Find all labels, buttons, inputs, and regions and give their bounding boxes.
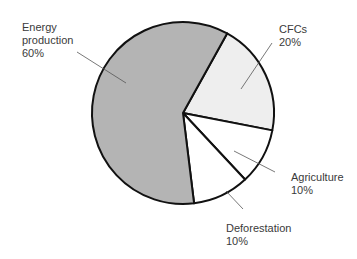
label-energy-line1: Energy: [22, 21, 73, 34]
label-energy-line2: production: [22, 34, 73, 47]
label-agriculture-name: Agriculture: [291, 171, 344, 184]
label-deforestation-value: 10%: [226, 235, 291, 248]
pie-slices: [92, 22, 274, 204]
label-agriculture: Agriculture 10%: [291, 171, 344, 197]
label-energy-production: Energy production 60%: [22, 21, 73, 60]
label-cfcs-name: CFCs: [279, 23, 307, 36]
label-agriculture-value: 10%: [291, 184, 344, 197]
label-cfcs: CFCs 20%: [279, 23, 307, 49]
label-deforestation-name: Deforestation: [226, 222, 291, 235]
label-deforestation: Deforestation 10%: [226, 222, 291, 248]
label-energy-value: 60%: [22, 47, 73, 60]
label-cfcs-value: 20%: [279, 36, 307, 49]
leader-line-deforestation: [226, 191, 243, 209]
